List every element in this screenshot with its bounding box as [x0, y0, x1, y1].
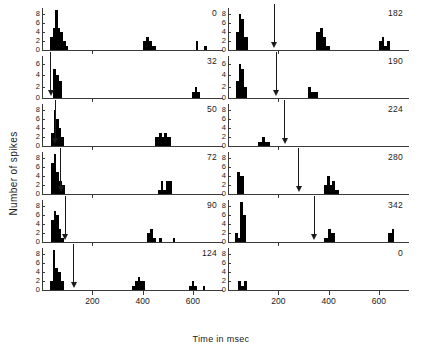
y-tick-label: 6	[30, 259, 40, 267]
stimulus-arrow-shaft	[65, 196, 66, 236]
y-tick	[42, 119, 45, 120]
y-tick	[228, 158, 231, 159]
x-tick-label: 200	[265, 296, 291, 306]
histogram-bar	[196, 41, 199, 50]
histogram-bar	[59, 81, 63, 98]
panel-delay-label: 124	[202, 248, 217, 258]
histogram-bar	[169, 181, 173, 194]
histogram-bar	[315, 92, 318, 98]
panel-right-6: 024680200400600	[228, 248, 409, 296]
histogram-bar	[203, 286, 206, 290]
y-tick-label: 2	[30, 181, 40, 189]
stimulus-arrow-shaft	[274, 4, 275, 44]
y-tick	[42, 254, 45, 255]
y-tick	[42, 14, 45, 15]
stimulus-arrow-head	[71, 282, 77, 288]
stimulus-arrow-shaft	[284, 100, 285, 140]
y-tick-label: 8	[30, 10, 40, 18]
stimulus-arrow-shaft	[60, 148, 61, 188]
x-tick-label: 600	[366, 296, 392, 306]
y-tick-label: 0	[30, 46, 40, 54]
y-tick	[42, 290, 45, 291]
y-tick-label: 4	[30, 124, 40, 132]
y-tick	[42, 32, 45, 33]
y-tick	[228, 119, 231, 120]
panel-right-1: 02468182	[228, 8, 409, 56]
y-tick	[228, 75, 231, 76]
y-tick-label: 4	[216, 220, 226, 228]
y-tick-label: 4	[216, 28, 226, 36]
x-tick	[379, 291, 380, 295]
y-tick-label: 8	[30, 202, 40, 210]
stimulus-arrow-shaft	[276, 52, 277, 92]
y-tick-label: 0	[216, 46, 226, 54]
baseline-axis	[42, 50, 223, 51]
stimulus-arrow-head	[48, 90, 54, 96]
y-tick	[42, 194, 45, 195]
histogram-bar	[267, 142, 270, 146]
stimulus-arrow-head	[273, 90, 279, 96]
y-tick	[228, 87, 231, 88]
y-tick	[228, 185, 231, 186]
y-tick	[228, 41, 231, 42]
y-tick-label: 0	[30, 142, 40, 150]
x-tick-label: 600	[180, 296, 206, 306]
histogram-bar	[140, 281, 145, 290]
stimulus-arrow-head	[52, 138, 58, 144]
y-tick-label: 8	[216, 10, 226, 18]
y-tick-label: 6	[216, 259, 226, 267]
stimulus-arrow-head	[296, 186, 302, 192]
x-tick-minor	[92, 147, 93, 150]
x-tick	[143, 291, 144, 295]
y-tick	[42, 23, 45, 24]
x-tick	[278, 291, 279, 295]
y-tick-label: 8	[216, 106, 226, 114]
x-tick-label: 400	[130, 296, 156, 306]
stimulus-arrow-head	[62, 234, 68, 240]
x-tick-minor	[278, 51, 279, 54]
y-tick	[228, 64, 231, 65]
stimulus-arrow-shaft	[73, 244, 74, 284]
histogram-bar	[244, 87, 248, 98]
x-tick-label: 400	[316, 296, 342, 306]
y-tick	[228, 254, 231, 255]
y-tick	[228, 32, 231, 33]
y-tick-label: 4	[30, 71, 40, 79]
y-tick	[42, 64, 45, 65]
y-tick	[228, 176, 231, 177]
x-tick-label: 200	[79, 296, 105, 306]
panel-left-5: 0246890	[42, 200, 223, 248]
x-tick-minor	[92, 99, 93, 102]
baseline-axis	[42, 98, 223, 99]
panel-delay-label: 280	[388, 152, 403, 162]
panel-left-1: 024680	[42, 8, 223, 56]
y-tick-label: 0	[216, 94, 226, 102]
panel-right-5: 02468342	[228, 200, 409, 248]
y-tick-label: 2	[216, 37, 226, 45]
y-tick	[42, 176, 45, 177]
panel-right-4: 02468280	[228, 152, 409, 200]
x-tick-minor	[92, 51, 93, 54]
y-tick	[228, 194, 231, 195]
panel-delay-label: 342	[388, 200, 403, 210]
y-tick-label: 4	[216, 71, 226, 79]
x-tick-minor	[92, 195, 93, 198]
y-tick	[228, 50, 231, 51]
y-tick	[228, 146, 231, 147]
y-tick	[42, 185, 45, 186]
y-tick	[228, 98, 231, 99]
panel-left-3: 0246850	[42, 104, 223, 152]
y-tick	[228, 242, 231, 243]
y-tick	[228, 233, 231, 234]
panel-delay-label: 0	[398, 248, 403, 258]
x-axis-label: Time in msec	[0, 334, 442, 344]
panel-delay-label: 190	[388, 56, 403, 66]
histogram-bar	[194, 286, 197, 290]
histogram-bar	[66, 46, 69, 50]
baseline-axis	[42, 194, 223, 195]
y-tick	[42, 263, 45, 264]
y-tick-label: 2	[30, 83, 40, 91]
y-tick	[42, 146, 45, 147]
panel-left-2: 024632	[42, 56, 223, 104]
stimulus-arrow-shaft	[298, 148, 299, 188]
